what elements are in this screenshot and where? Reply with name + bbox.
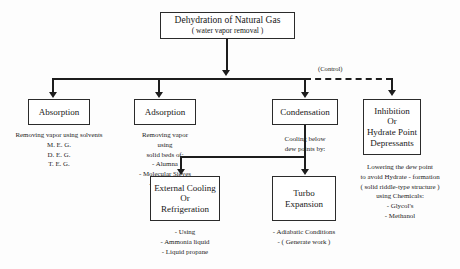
node-inhibition-line-4: Depressants bbox=[370, 138, 414, 149]
root-title: Dehydration of Natural Gas bbox=[175, 15, 281, 26]
caption-inhibition-line-1: Lowering the dew point bbox=[340, 162, 460, 172]
node-external-cooling-line-3: Refrigeration bbox=[161, 204, 209, 215]
caption-absorption-line-3: D. E. G. bbox=[0, 150, 118, 160]
node-turbo-expansion: Turbo Expansion bbox=[272, 176, 336, 221]
node-inhibition-line-3: Hydrate Point bbox=[367, 127, 417, 138]
node-absorption-label: Absorption bbox=[39, 107, 80, 118]
flowchart-diagram: Dehydration of Natural Gas ( water vapor… bbox=[0, 0, 460, 269]
caption-external-cooling: - Using - Ammonia liquid - Liquid propan… bbox=[140, 227, 230, 256]
node-external-cooling: External Cooling Or Refrigeration bbox=[150, 176, 220, 221]
node-inhibition-line-1: Inhibition bbox=[374, 106, 410, 117]
caption-absorption: Removing vapor using solvents M. E. G. D… bbox=[0, 130, 118, 169]
caption-inhibition-line-4: using Chemicals: bbox=[340, 191, 460, 201]
caption-turbo-expansion-line-2: - ( Generate work ) bbox=[256, 237, 352, 247]
arrow-to-absorption bbox=[49, 92, 57, 98]
caption-inhibition-line-5: - Glycol's bbox=[340, 201, 460, 211]
caption-adsorption-line-3: solid beds of: bbox=[117, 150, 213, 160]
node-adsorption-label: Adsorption bbox=[145, 107, 186, 118]
arrow-to-turbo-expansion bbox=[301, 169, 309, 175]
caption-adsorption-line-1: Removing vapor bbox=[117, 130, 213, 140]
node-root-dehydration: Dehydration of Natural Gas ( water vapor… bbox=[160, 12, 295, 39]
caption-inhibition-line-6: - Methanol bbox=[340, 211, 460, 221]
caption-absorption-line-1: Removing vapor using solvents bbox=[0, 130, 118, 140]
node-turbo-expansion-line-2: Expansion bbox=[285, 199, 323, 210]
node-inhibition-line-2: Or bbox=[387, 116, 397, 127]
caption-turbo-expansion: - Adiabatic Conditions - ( Generate work… bbox=[256, 227, 352, 247]
caption-external-cooling-line-1: - Using bbox=[140, 227, 230, 237]
arrow-root-to-bus bbox=[222, 70, 230, 76]
arrow-to-inhibition bbox=[388, 90, 396, 96]
arrow-to-condensation bbox=[301, 92, 309, 98]
caption-absorption-line-2: M. E. G. bbox=[0, 140, 118, 150]
arrow-to-adsorption bbox=[155, 92, 163, 98]
node-inhibition: Inhibition Or Hydrate Point Depressants bbox=[363, 99, 421, 155]
node-external-cooling-line-2: Or bbox=[180, 193, 190, 204]
caption-absorption-line-4: T. E. G. bbox=[0, 159, 118, 169]
node-absorption: Absorption bbox=[28, 99, 90, 125]
caption-adsorption-line-2: using bbox=[117, 140, 213, 150]
node-condensation: Condensation bbox=[272, 99, 338, 125]
caption-inhibition: Lowering the dew point to avoid Hydrate … bbox=[340, 162, 460, 221]
caption-adsorption-line-4: - Alumna bbox=[117, 159, 213, 169]
caption-external-cooling-line-3: - Liquid propane bbox=[140, 247, 230, 257]
connector-root-stem bbox=[226, 39, 228, 73]
connector-control-dashed bbox=[305, 78, 392, 80]
caption-inhibition-line-3: ( solid riddle-type structure ) bbox=[340, 182, 460, 192]
connector-main-bus bbox=[52, 78, 305, 80]
node-adsorption: Adsorption bbox=[134, 99, 196, 125]
node-turbo-expansion-line-1: Turbo bbox=[293, 188, 315, 199]
caption-turbo-expansion-line-1: - Adiabatic Conditions bbox=[256, 227, 352, 237]
caption-external-cooling-line-2: - Ammonia liquid bbox=[140, 237, 230, 247]
node-external-cooling-line-1: External Cooling bbox=[154, 183, 216, 194]
arrow-to-external-cooling bbox=[177, 169, 185, 175]
connector-sub-bus bbox=[180, 156, 305, 158]
node-condensation-label: Condensation bbox=[280, 107, 330, 118]
caption-inhibition-line-2: to avoid Hydrate - formation bbox=[340, 172, 460, 182]
control-label: (Control) bbox=[318, 65, 343, 72]
root-subtitle: ( water vapor removal ) bbox=[192, 27, 264, 36]
connector-condensation-stem bbox=[304, 125, 306, 157]
